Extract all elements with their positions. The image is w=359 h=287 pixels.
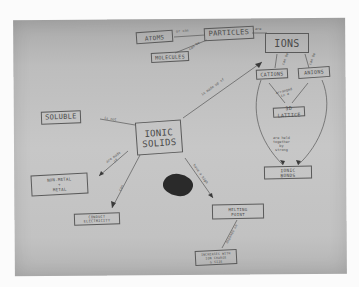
node-atoms: ATOMS bbox=[136, 30, 174, 45]
node-ionic-bonds: IONIC BONDS bbox=[264, 166, 312, 180]
node-increases-with-charge: INCREASES WITH ION CHARGE & SIZE bbox=[195, 249, 238, 266]
node-cations: CATIONS bbox=[256, 68, 288, 80]
node-anions: ANIONS bbox=[298, 66, 331, 79]
node-nonmetal-metal: NON-METAL + METAL bbox=[30, 173, 88, 197]
node-ions: IONS bbox=[265, 33, 309, 53]
node-molecules: MOLECULES bbox=[151, 51, 189, 63]
node-particles: PARTICLES bbox=[204, 26, 255, 42]
node-ionic-solids: IONIC SOLIDS bbox=[135, 119, 183, 155]
node-melting-point: MELTING POINT bbox=[212, 204, 264, 220]
node-soluble: SOLUBLE bbox=[41, 110, 81, 124]
node-3d-lattice: 3D LATTICE bbox=[273, 106, 305, 118]
link-label-particles-ions: are bbox=[255, 27, 261, 31]
node-conduct-electricity: CONDUCT ELECTRICITY bbox=[74, 212, 120, 226]
link-label-bonds: are held together by strong bbox=[273, 136, 290, 152]
